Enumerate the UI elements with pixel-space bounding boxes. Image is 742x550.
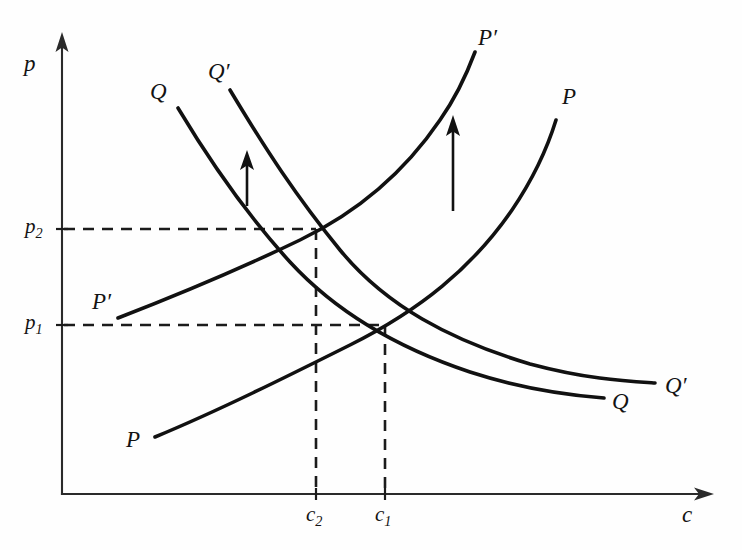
curve-label-p-prime-left: P′ — [92, 290, 111, 313]
tick-label-c1-sub: 1 — [384, 513, 391, 529]
tick-label-c2-sub: 2 — [315, 513, 322, 529]
curve-q-prime — [230, 90, 655, 383]
tick-label-p1-sub: 1 — [36, 321, 43, 337]
curve-label-q-top: Q — [150, 80, 167, 103]
figure-root: p c p2 p1 c2 c1 Q Q′ Q Q′ P′ P P′ P — [0, 0, 742, 550]
curve-q — [178, 108, 604, 398]
tick-label-c1: c1 — [375, 504, 391, 528]
tick-label-p1-base: p — [25, 310, 36, 334]
x-axis-label: c — [682, 503, 692, 526]
tick-label-c2-base: c — [306, 502, 315, 526]
tick-marks-group — [56, 229, 385, 500]
curve-label-q-prime-top: Q′ — [208, 60, 230, 83]
curve-label-q-prime-right: Q′ — [665, 374, 687, 397]
guide-lines-group — [64, 229, 385, 492]
curve-label-p-left: P — [126, 428, 140, 451]
curves-group — [118, 52, 655, 437]
tick-label-p2-base: p — [25, 214, 36, 238]
curve-p-prime — [118, 52, 475, 318]
curve-label-p-top: P — [562, 85, 576, 108]
tick-label-c2: c2 — [306, 504, 322, 528]
tick-label-p1: p1 — [25, 312, 43, 336]
curve-label-q-right: Q — [612, 390, 629, 413]
tick-label-p2: p2 — [25, 216, 43, 240]
tick-label-p2-sub: 2 — [36, 225, 43, 241]
supply-shift-arrow — [446, 115, 460, 211]
y-axis-label: p — [24, 52, 36, 75]
shift-arrows-group — [240, 115, 460, 211]
tick-label-c1-base: c — [375, 502, 384, 526]
curve-label-p-prime-top: P′ — [478, 26, 497, 49]
demand-shift-arrow — [240, 150, 254, 206]
diagram-canvas — [0, 0, 742, 550]
